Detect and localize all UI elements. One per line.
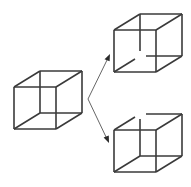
cube-edge-diagonal-bottom-left: [114, 156, 140, 172]
cube-edge-diagonal-bottom-right: [156, 56, 182, 72]
arrow-head-bottom-icon: [104, 136, 109, 143]
cube-edge-diagonal-bottom-left-occluded: [114, 59, 135, 72]
cube-edge-diagonal-top-left: [114, 14, 140, 30]
cube-edge-diagonal-top-right: [56, 71, 82, 87]
interpretation-arrows: [88, 54, 110, 143]
necker-cube-figure: [0, 0, 191, 187]
interpretation-cube-one: [114, 14, 182, 72]
arrow-head-top-icon: [105, 54, 111, 61]
interpretation-cube-two: [114, 114, 182, 172]
cube-edge-diagonal-top-left: [14, 71, 40, 87]
arrow-line-to-top-cube: [88, 58, 108, 99]
cube-edge-diagonal-bottom-right: [156, 156, 182, 172]
arrow-line-to-bottom-cube: [88, 99, 107, 139]
cube-edge-diagonal-top-right: [156, 114, 182, 130]
ambiguous-necker-cube: [14, 71, 82, 129]
cube-edge-diagonal-top-left-occluded: [114, 117, 135, 130]
cube-edge-diagonal-bottom-right: [56, 113, 82, 129]
figure-canvas: [0, 0, 191, 187]
cube-edge-diagonal-top-right: [156, 14, 182, 30]
cube-edge-diagonal-bottom-left: [14, 113, 40, 129]
